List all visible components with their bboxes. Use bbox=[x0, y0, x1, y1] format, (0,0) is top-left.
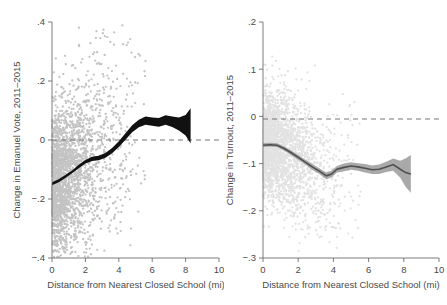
scatter-point bbox=[54, 144, 56, 146]
scatter-point bbox=[266, 96, 268, 98]
scatter-point bbox=[329, 146, 331, 148]
scatter-point bbox=[312, 206, 314, 208]
scatter-point bbox=[85, 84, 87, 86]
scatter-point bbox=[310, 154, 312, 156]
scatter-point bbox=[285, 116, 287, 118]
scatter-point bbox=[95, 103, 97, 105]
scatter-point bbox=[65, 150, 67, 152]
scatter-point bbox=[127, 41, 129, 43]
scatter-point bbox=[280, 190, 282, 192]
scatter-point bbox=[87, 179, 89, 181]
scatter-point bbox=[286, 106, 288, 108]
scatter-point bbox=[280, 74, 282, 76]
scatter-point bbox=[76, 139, 78, 141]
scatter-point bbox=[356, 144, 358, 146]
scatter-point bbox=[68, 202, 70, 204]
scatter-point bbox=[105, 167, 107, 169]
scatter-point bbox=[59, 184, 61, 186]
scatter-point bbox=[77, 255, 79, 257]
scatter-point bbox=[65, 144, 67, 146]
scatter-point bbox=[330, 226, 332, 228]
y-tick-label: .2 bbox=[37, 75, 45, 86]
scatter-point bbox=[62, 226, 64, 228]
scatter-point bbox=[264, 109, 266, 111]
scatter-point bbox=[272, 104, 274, 106]
scatter-point bbox=[271, 151, 273, 153]
scatter-point bbox=[68, 167, 70, 169]
scatter-point bbox=[288, 187, 290, 189]
scatter-point bbox=[103, 127, 105, 129]
scatter-point bbox=[335, 147, 337, 149]
scatter-point bbox=[114, 214, 116, 216]
scatter-point bbox=[106, 203, 108, 205]
scatter-point bbox=[323, 160, 325, 162]
scatter-point bbox=[109, 167, 111, 169]
scatter-point bbox=[84, 189, 86, 191]
scatter-point bbox=[65, 226, 67, 228]
scatter-point bbox=[278, 154, 280, 156]
scatter-point bbox=[87, 70, 89, 72]
scatter-point bbox=[64, 216, 66, 218]
scatter-point bbox=[63, 122, 65, 124]
scatter-point bbox=[78, 119, 80, 121]
scatter-point bbox=[267, 137, 269, 139]
scatter-point bbox=[300, 228, 302, 230]
scatter-point bbox=[74, 67, 76, 69]
scatter-point bbox=[104, 146, 106, 148]
scatter-point bbox=[285, 189, 287, 191]
scatter-point bbox=[89, 247, 91, 249]
scatter-point bbox=[113, 218, 115, 220]
scatter-point bbox=[323, 142, 325, 144]
scatter-point bbox=[274, 98, 276, 100]
scatter-point bbox=[116, 232, 118, 234]
scatter-point bbox=[328, 241, 330, 243]
scatter-point bbox=[91, 181, 93, 183]
scatter-point bbox=[299, 145, 301, 147]
scatter-point bbox=[276, 209, 278, 211]
scatter-point bbox=[283, 128, 285, 130]
scatter-point bbox=[75, 213, 77, 215]
scatter-point bbox=[268, 139, 270, 141]
scatter-point bbox=[266, 149, 268, 151]
scatter-point bbox=[122, 43, 124, 45]
scatter-point bbox=[100, 196, 102, 198]
scatter-point bbox=[120, 123, 122, 125]
scatter-point bbox=[319, 142, 321, 144]
scatter-point bbox=[119, 117, 121, 119]
scatter-point bbox=[73, 126, 75, 128]
scatter-point bbox=[278, 167, 280, 169]
scatter-point bbox=[295, 78, 297, 80]
scatter-point bbox=[264, 168, 266, 170]
scatter-point bbox=[348, 105, 350, 107]
scatter-point bbox=[110, 125, 112, 127]
scatter-point bbox=[319, 137, 321, 139]
scatter-point bbox=[72, 85, 74, 87]
scatter-point bbox=[72, 195, 74, 197]
scatter-point bbox=[57, 229, 59, 231]
scatter-point bbox=[107, 77, 109, 79]
scatter-point bbox=[93, 180, 95, 182]
scatter-point bbox=[287, 70, 289, 72]
scatter-point bbox=[303, 102, 305, 104]
scatter-point bbox=[119, 133, 121, 135]
scatter-point bbox=[54, 162, 56, 164]
scatter-point bbox=[61, 93, 63, 95]
scatter-point bbox=[134, 102, 136, 104]
scatter-point bbox=[94, 191, 96, 193]
x-tick-label: 0 bbox=[49, 264, 54, 275]
scatter-point bbox=[306, 188, 308, 190]
scatter-point bbox=[357, 204, 359, 206]
scatter-point bbox=[80, 61, 82, 63]
scatter-point bbox=[350, 114, 352, 116]
scatter-point bbox=[54, 120, 56, 122]
scatter-point bbox=[292, 103, 294, 105]
scatter-point bbox=[83, 212, 85, 214]
scatter-point bbox=[290, 90, 292, 92]
scatter-point bbox=[119, 146, 121, 148]
scatter-point bbox=[290, 215, 292, 217]
scatter-point bbox=[65, 214, 67, 216]
scatter-point bbox=[64, 142, 66, 144]
scatter-point bbox=[273, 124, 275, 126]
scatter-point bbox=[307, 115, 309, 117]
scatter-point bbox=[304, 113, 306, 115]
